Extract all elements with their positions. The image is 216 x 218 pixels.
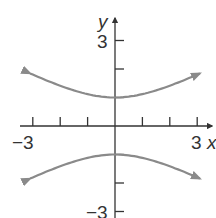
y-max-label: 3 (97, 32, 108, 51)
x-axis-label: x (207, 133, 216, 152)
x-min-label: −3 (12, 133, 34, 152)
y-min-label: −3 (86, 203, 108, 218)
x-max-label: 3 (191, 133, 202, 152)
hyperbola-graph (0, 0, 216, 218)
y-axis-label: y (98, 12, 108, 31)
